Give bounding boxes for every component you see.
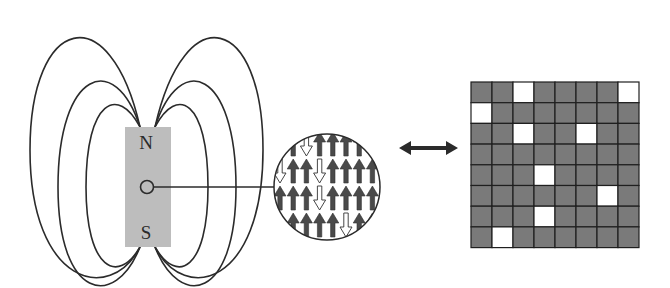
grid-cell-filled [618,103,639,124]
grid-cell-filled [513,206,534,227]
grid-cell-filled [618,186,639,207]
arrow-up-icon [366,132,378,156]
grid-cell-filled [534,227,555,248]
grid-cell-filled [513,103,534,124]
grid-cell-filled [597,165,618,186]
grid-cell-filled [492,165,513,186]
grid-cell-filled [597,144,618,165]
double-headed-arrow-icon [399,141,458,155]
grid-cell-empty [492,227,513,248]
grid-cell-empty [513,82,534,103]
grid-cell-filled [576,186,597,207]
grid-cell-filled [492,82,513,103]
grid-cell-filled [513,227,534,248]
grid-cell-filled [471,165,492,186]
grid-cell-filled [576,206,597,227]
grid-cell-filled [471,206,492,227]
grid-cell-filled [576,82,597,103]
grid-cell-filled [555,165,576,186]
grid-cell-filled [576,227,597,248]
grid-cell-filled [597,206,618,227]
grid-cell-filled [618,227,639,248]
grid-cell-filled [555,123,576,144]
grid-cell-filled [555,103,576,124]
grid-cell-filled [492,103,513,124]
magnet-domain-diagram [0,0,670,288]
grid-cell-filled [597,227,618,248]
grid-cell-filled [618,206,639,227]
grid-cell-filled [513,165,534,186]
binary-grid [471,82,639,248]
grid-cell-filled [555,206,576,227]
grid-cell-filled [618,144,639,165]
grid-cell-filled [513,144,534,165]
grid-cell-filled [555,227,576,248]
grid-cell-filled [576,103,597,124]
grid-cell-filled [513,186,534,207]
grid-cell-empty [534,165,555,186]
field-line-right-outer [155,38,263,278]
grid-cell-filled [555,144,576,165]
grid-cell-filled [534,123,555,144]
grid-cell-filled [597,123,618,144]
grid-cell-filled [471,123,492,144]
grid-cell-empty [576,123,597,144]
grid-cell-empty [534,206,555,227]
grid-cell-filled [576,165,597,186]
grid-cell-empty [618,82,639,103]
grid-cell-empty [471,103,492,124]
north-pole-label: N [131,132,161,154]
grid-cell-filled [597,103,618,124]
grid-cell-filled [492,144,513,165]
grid-cell-filled [534,103,555,124]
grid-cell-empty [513,123,534,144]
grid-cell-empty [597,186,618,207]
arrow-up-icon [274,132,286,156]
grid-cell-filled [618,165,639,186]
grid-cell-filled [555,82,576,103]
grid-cell-filled [492,186,513,207]
grid-cell-filled [492,206,513,227]
grid-cell-filled [492,123,513,144]
grid-cell-filled [618,123,639,144]
grid-cell-filled [471,186,492,207]
field-line-left-outer [30,38,140,278]
grid-cell-filled [471,144,492,165]
grid-cell-filled [471,82,492,103]
grid-cell-filled [471,227,492,248]
grid-cell-filled [555,186,576,207]
grid-cell-filled [534,144,555,165]
grid-cell-filled [534,82,555,103]
grid-cell-filled [597,82,618,103]
grid-cell-filled [576,144,597,165]
south-pole-label: S [131,222,161,244]
grid-cell-filled [534,186,555,207]
